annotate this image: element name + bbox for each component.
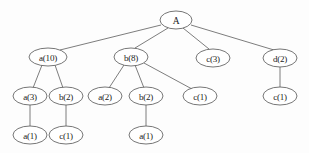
tree-node[interactable]: a(2) — [88, 87, 122, 105]
tree-edge — [191, 25, 274, 50]
node-label: a(1) — [139, 131, 153, 141]
tree-edge — [55, 65, 63, 88]
tree-node[interactable]: b(2) — [129, 87, 163, 105]
tree-edge — [144, 63, 192, 89]
tree-edge — [109, 65, 124, 88]
tree-node[interactable]: c(3) — [196, 49, 230, 67]
node-label: c(1) — [59, 131, 73, 141]
node-label: c(3) — [206, 54, 220, 64]
tree-node[interactable]: c(1) — [263, 87, 297, 105]
node-label: a(1) — [23, 131, 37, 141]
node-label: A — [173, 16, 180, 26]
tree-edge — [60, 25, 161, 50]
tree-edge — [135, 65, 144, 88]
tree-node[interactable]: c(1) — [183, 87, 217, 105]
node-label: a(2) — [98, 92, 112, 102]
edge-layer — [30, 25, 280, 126]
tree-node[interactable]: a(3) — [13, 87, 47, 105]
fp-tree-diagram: Aa(10)b(8)c(3)d(2)a(3)b(2)a(2)b(2)c(1)c(… — [0, 0, 309, 153]
node-label: a(10) — [39, 53, 57, 63]
node-label: a(3) — [23, 92, 37, 102]
tree-node[interactable]: a(1) — [129, 126, 163, 144]
node-label: b(2) — [59, 92, 73, 102]
node-label: c(1) — [273, 92, 287, 102]
node-label: b(8) — [124, 53, 138, 63]
tree-edge — [135, 28, 168, 48]
node-label: d(2) — [273, 54, 287, 64]
node-layer: Aa(10)b(8)c(3)d(2)a(3)b(2)a(2)b(2)c(1)c(… — [13, 11, 297, 144]
tree-node[interactable]: b(2) — [49, 87, 83, 105]
tree-node[interactable]: c(1) — [49, 126, 83, 144]
tree-node[interactable]: a(1) — [13, 126, 47, 144]
node-label: b(2) — [139, 92, 153, 102]
tree-node-root[interactable]: A — [160, 11, 192, 29]
tree-edge — [183, 28, 209, 49]
tree-node[interactable]: b(8) — [114, 48, 148, 66]
tree-node[interactable]: a(10) — [29, 48, 67, 66]
node-label: c(1) — [193, 92, 207, 102]
tree-edge — [33, 65, 42, 88]
tree-node[interactable]: d(2) — [263, 49, 297, 67]
tree-svg-canvas: Aa(10)b(8)c(3)d(2)a(3)b(2)a(2)b(2)c(1)c(… — [0, 0, 309, 153]
